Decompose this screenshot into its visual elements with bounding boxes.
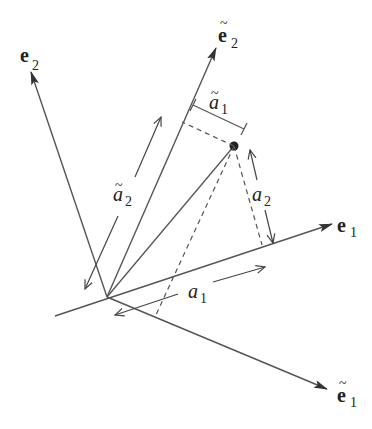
- label-a2-sub: 2: [264, 194, 271, 209]
- a2-arrow-upper: [250, 150, 257, 180]
- label-e2: e 2: [20, 44, 39, 73]
- label-e1-tilde-sub: 1: [350, 395, 357, 410]
- projection-to-e2-tilde: [182, 122, 234, 146]
- e1-tilde-axis: [107, 297, 327, 389]
- label-a1-sub: 1: [200, 291, 207, 306]
- label-e1-tilde-main: e: [337, 384, 346, 406]
- coordinate-transform-diagram: e 1 e 2 ~ e 1 ~ e 2 a 1 a 2 ~ a 1 ~ a 2: [0, 0, 372, 429]
- label-e1-sub: 1: [350, 225, 357, 240]
- label-e1: e 1: [337, 214, 357, 240]
- e2-axis: [31, 72, 107, 297]
- label-a2: a 2: [252, 183, 271, 209]
- label-a2-tilde-sub: 2: [125, 194, 132, 209]
- label-a2-tilde-main: a: [113, 183, 123, 205]
- label-e2-main: e: [20, 44, 29, 66]
- label-a1-tilde-sub: 1: [221, 102, 228, 117]
- label-e2-tilde-main: e: [218, 24, 227, 46]
- e1-axis: [55, 224, 332, 316]
- label-a1: a 1: [188, 280, 207, 306]
- label-a1-tilde-main: a: [209, 91, 219, 113]
- a1-arrow-right: [213, 267, 265, 282]
- a1-tilde-bar-cap-right: [241, 123, 247, 135]
- label-a2-main: a: [252, 183, 262, 205]
- label-a2-tilde: ~ a 2: [113, 178, 132, 209]
- label-e1-tilde: ~ e 1: [337, 376, 357, 410]
- a2-tilde-arrow-lower: [85, 216, 118, 289]
- a2-arrow-lower: [265, 210, 273, 243]
- a2-tilde-arrow-upper: [135, 117, 161, 177]
- label-a1-tilde: ~ a 1: [209, 86, 228, 117]
- label-e2-sub: 2: [32, 58, 39, 73]
- label-e2-tilde: ~ e 2: [218, 16, 238, 51]
- position-vector: [107, 146, 234, 297]
- label-e2-tilde-sub: 2: [231, 36, 238, 51]
- label-a1-main: a: [188, 280, 198, 302]
- e2-tilde-axis: [107, 48, 216, 297]
- label-e1-main: e: [337, 214, 346, 236]
